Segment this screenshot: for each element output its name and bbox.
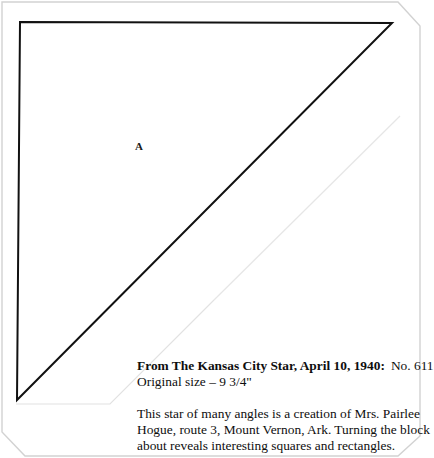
caption-size-line: Original size – 9 3/4" bbox=[137, 374, 423, 390]
caption-source-line: From The Kansas City Star, April 10, 194… bbox=[137, 358, 423, 374]
piece-label-a: A bbox=[135, 140, 143, 152]
caption-source-text: From The Kansas City Star, April 10, 194… bbox=[137, 358, 385, 373]
description-line-1: This star of many angles is a creation o… bbox=[137, 406, 427, 422]
description-line-2: Hogue, route 3, Mount Vernon, Ark. Turni… bbox=[137, 422, 427, 438]
description-line-3: about reveals interesting squares and re… bbox=[137, 438, 427, 454]
caption-pattern-number: No. 611 bbox=[385, 358, 434, 373]
caption-block: From The Kansas City Star, April 10, 194… bbox=[137, 358, 423, 389]
triangle-piece-a bbox=[17, 22, 392, 400]
description-block: This star of many angles is a creation o… bbox=[137, 406, 427, 454]
